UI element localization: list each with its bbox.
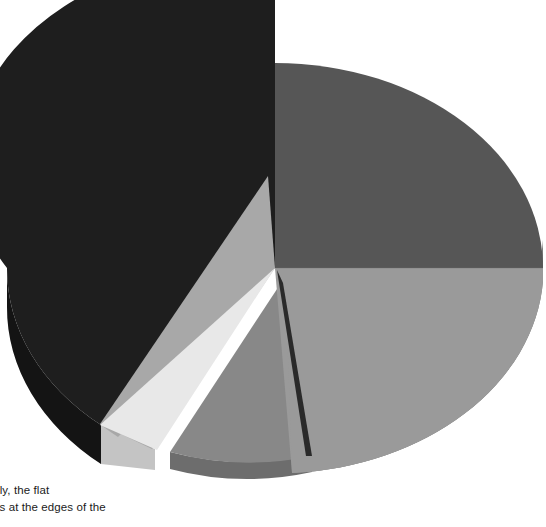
pie-chart-figure [0, 0, 546, 527]
figure-caption: nally, the flat sides at the edges of th… [0, 482, 230, 516]
pie-slice-2-top [275, 63, 543, 268]
caption-line-1: nally, the flat [0, 482, 230, 499]
pie-chart-canvas [0, 0, 546, 527]
caption-line-2: sides at the edges of the [0, 499, 230, 516]
pie-slice-3-body [275, 268, 543, 473]
